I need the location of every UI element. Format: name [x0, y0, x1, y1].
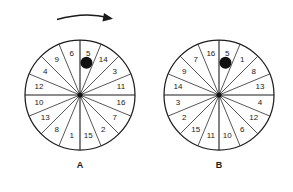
wheel-a-sector-label: 3: [113, 67, 118, 76]
wheel-b-hub: [216, 92, 221, 97]
wheel-a-sector-label: 1: [70, 131, 75, 140]
wheel-b-sector-label: 12: [249, 113, 258, 122]
wheel-a: 51431116721518131012496A: [25, 40, 135, 170]
wheel-a-sector-label: 12: [35, 82, 44, 91]
wheel-b-sector-label: 11: [207, 131, 216, 140]
wheel-b-sector-label: 3: [176, 98, 181, 107]
wheel-a-sector-label: 13: [41, 113, 50, 122]
wheel-a-sector-label: 7: [113, 113, 118, 122]
spinner-wheels-figure: 51431116721518131012496A 518134126101115…: [0, 0, 293, 192]
wheel-a-sector-label: 11: [117, 82, 126, 91]
wheel-a-sector-label: 10: [35, 98, 44, 107]
wheel-a-sector-label: 4: [43, 67, 48, 76]
wheel-a-label: A: [77, 160, 84, 170]
wheel-b-sector-label: 9: [182, 67, 187, 76]
wheel-b-sector-label: 15: [191, 125, 200, 134]
wheel-a-sector-label: 9: [55, 55, 60, 64]
wheel-b-sector-label: 10: [223, 131, 232, 140]
wheel-a-sector-label: 2: [101, 125, 106, 134]
wheel-b-label: B: [216, 160, 223, 170]
wheel-b-sector-label: 14: [174, 82, 183, 91]
wheel-a-sector-label: 15: [84, 131, 93, 140]
wheel-b-sector-label: 16: [206, 49, 215, 58]
wheel-b-marker-dot: [219, 57, 231, 69]
wheel-b-sector-label: 6: [240, 125, 245, 134]
wheel-a-sector-label: 16: [117, 98, 126, 107]
wheel-b-sector-label: 8: [252, 67, 257, 76]
wheel-a-marker-dot: [80, 57, 92, 69]
wheel-a-sector-label: 14: [99, 55, 108, 64]
arrow-head-icon: [103, 13, 114, 22]
rotation-arrow-group: [57, 13, 113, 22]
wheel-a-sector-label: 6: [70, 49, 75, 58]
wheel-a-sector-label: 8: [55, 125, 60, 134]
wheel-b-sector-label: 7: [194, 55, 199, 64]
wheel-a-hub: [77, 92, 82, 97]
wheel-b: 51813412610111523149716B: [164, 40, 274, 170]
wheel-b-sector-label: 2: [182, 113, 187, 122]
wheel-b-sector-label: 4: [258, 98, 263, 107]
wheel-b-sector-label: 13: [256, 82, 265, 91]
clockwise-rotation-arrow: [57, 15, 108, 20]
wheel-b-sector-label: 1: [240, 55, 245, 64]
